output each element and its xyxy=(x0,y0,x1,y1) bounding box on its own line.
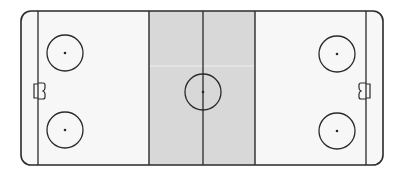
faceoff-dot-right-bottom xyxy=(336,130,339,133)
faceoff-dot-left-top xyxy=(64,52,67,55)
hockey-rink-diagram xyxy=(0,0,405,183)
faceoff-dot-left-bottom xyxy=(64,129,67,132)
center-faceoff-dot xyxy=(202,91,205,94)
neutral-zone xyxy=(149,12,255,165)
faceoff-dot-right-top xyxy=(336,53,339,56)
